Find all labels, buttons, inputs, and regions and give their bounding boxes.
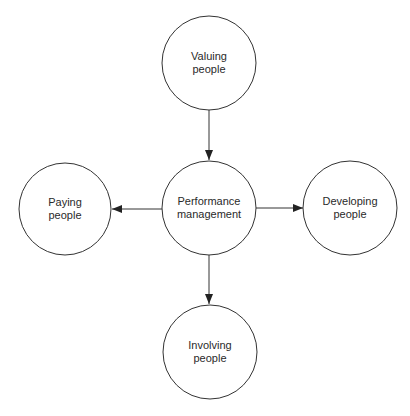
label-line: people [20, 209, 110, 222]
label-line: people [164, 63, 254, 76]
label-line: Paying [20, 196, 110, 209]
label-valuing-people: Valuing people [164, 50, 254, 76]
label-line: Involving [165, 339, 255, 352]
label-line: people [305, 208, 395, 221]
label-line: Performance [164, 195, 254, 208]
label-involving-people: Involving people [165, 339, 255, 365]
label-paying-people: Paying people [20, 196, 110, 222]
label-line: management [164, 208, 254, 221]
label-line: people [165, 352, 255, 365]
label-performance-management: Performance management [164, 195, 254, 221]
label-line: Developing [305, 195, 395, 208]
label-developing-people: Developing people [305, 195, 395, 221]
label-line: Valuing [164, 50, 254, 63]
